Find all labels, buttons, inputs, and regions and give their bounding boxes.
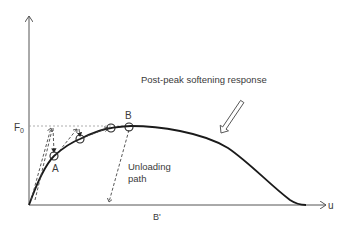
y-axis-label: F0: [14, 122, 24, 134]
b-prime-label: B': [153, 212, 161, 222]
post-peak-annotation: Post-peak softening response: [141, 74, 267, 85]
unloading-annotation-line1: Unloading: [128, 161, 171, 172]
x-axis-label: u: [328, 200, 334, 211]
point-b-label: B: [125, 110, 132, 121]
force-displacement-diagram: F0 u B' A B Post-peak softening response…: [0, 0, 351, 231]
unloading-annotation-line2: path: [128, 173, 147, 184]
point-a-label: A: [52, 163, 59, 174]
post-peak-pointer-arrow: [217, 99, 247, 136]
